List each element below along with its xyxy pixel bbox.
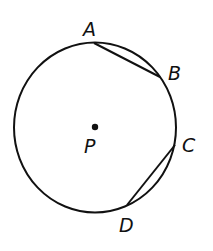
label-d: D xyxy=(119,214,134,236)
label-p: P xyxy=(84,135,96,157)
label-c: C xyxy=(182,134,196,156)
label-a: A xyxy=(81,18,96,40)
chord-ab xyxy=(94,43,160,77)
circle-diagram: A B C D P xyxy=(0,0,213,251)
label-b: B xyxy=(168,62,181,84)
chord-cd xyxy=(127,145,175,205)
center-point xyxy=(92,124,98,130)
